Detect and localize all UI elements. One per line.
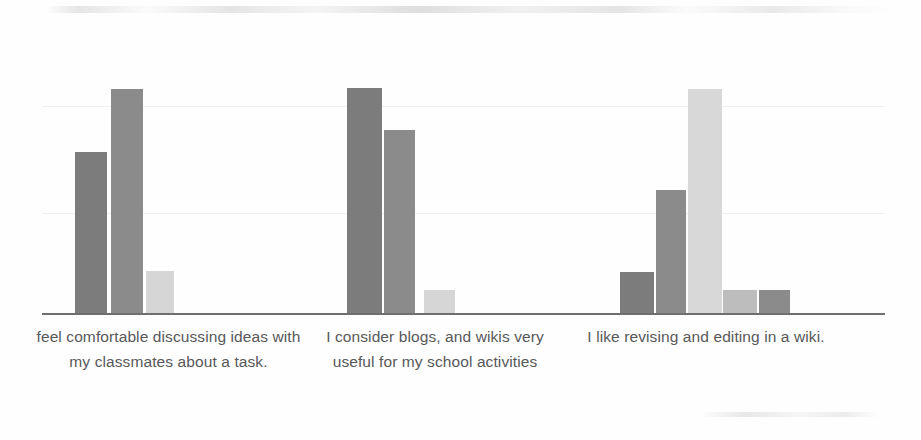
bar-g2-s1	[347, 88, 382, 313]
bar-g3-s2	[656, 190, 686, 313]
category-label-2: I consider blogs, and wikis very useful …	[305, 324, 565, 374]
bar-g2-s2	[384, 130, 415, 313]
bar-g3-s5	[759, 290, 790, 313]
bar-g1-s2	[111, 89, 143, 313]
bar-g3-s3	[688, 89, 722, 313]
bar-g2-s3	[424, 290, 455, 313]
x-axis-line	[42, 313, 885, 315]
bar-g1-s1	[75, 152, 107, 313]
gridline-upper	[42, 106, 885, 107]
category-label-3: I like revising and editing in a wiki.	[572, 324, 840, 349]
gridline-lower	[42, 213, 885, 214]
category-labels: feel comfortable discussing ideas with m…	[0, 320, 921, 430]
plot-area	[0, 0, 921, 315]
bar-g3-s4	[723, 290, 757, 313]
category-label-1: feel comfortable discussing ideas with m…	[36, 324, 301, 374]
bar-g3-s1	[620, 272, 654, 313]
chart-container: feel comfortable discussing ideas with m…	[0, 0, 921, 440]
bar-g1-s3	[146, 271, 174, 313]
